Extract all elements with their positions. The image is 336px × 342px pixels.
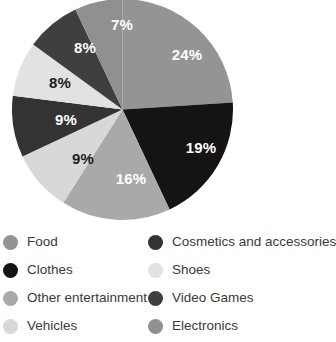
legend-swatch-icon [148, 263, 163, 278]
legend-swatch-icon [148, 235, 163, 250]
legend-column-left: FoodClothesOther entertainmentVehicles [3, 228, 148, 340]
legend-item[interactable]: Food [3, 228, 148, 256]
pie-slice-group [12, 0, 233, 220]
legend-swatch-icon [148, 291, 163, 306]
legend-swatch-icon [3, 235, 18, 250]
legend-item-label: Video Games [172, 291, 254, 305]
legend-item[interactable]: Vehicles [3, 312, 148, 340]
legend-item[interactable]: Electronics [148, 312, 325, 340]
legend-column-right: Cosmetics and accessoriesShoesVideo Game… [148, 228, 325, 340]
legend-item[interactable]: Cosmetics and accessories [148, 228, 325, 256]
pie-slice-label: 24% [172, 46, 203, 63]
legend-item-label: Cosmetics and accessories [172, 235, 336, 249]
legend-item[interactable]: Clothes [3, 256, 148, 284]
pie-slice-label: 9% [72, 150, 94, 167]
legend-item-label: Food [27, 235, 58, 249]
legend-swatch-icon [148, 319, 163, 334]
pie-slice-label: 9% [55, 111, 77, 128]
chart-legend: FoodClothesOther entertainmentVehicles C… [0, 228, 325, 342]
legend-item-label: Shoes [172, 263, 210, 277]
legend-item[interactable]: Video Games [148, 284, 325, 312]
legend-item-label: Vehicles [27, 319, 77, 333]
legend-swatch-icon [3, 291, 18, 306]
legend-swatch-icon [3, 263, 18, 278]
pie-slice-label: 8% [49, 74, 71, 91]
legend-swatch-icon [3, 319, 18, 334]
pie-slice-label: 8% [74, 39, 96, 56]
pie-chart-svg: 24%19%16%9%9%8%8%7% [12, 0, 234, 221]
pie-slice-label: 16% [116, 170, 147, 187]
pie-chart-figure: 24%19%16%9%9%8%8%7% [0, 0, 325, 224]
legend-item-label: Clothes [27, 263, 73, 277]
legend-item-label: Electronics [172, 319, 238, 333]
legend-item[interactable]: Other entertainment [3, 284, 148, 312]
legend-item-label: Other entertainment [27, 291, 147, 305]
pie-slice-label: 19% [186, 139, 217, 156]
legend-item[interactable]: Shoes [148, 256, 325, 284]
pie-slice-label: 7% [111, 16, 133, 33]
